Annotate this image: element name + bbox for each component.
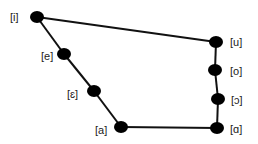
edge-line bbox=[37, 17, 216, 42]
vowel-dot bbox=[210, 122, 224, 134]
vowel-dot bbox=[87, 85, 101, 97]
vowel-label: [a] bbox=[95, 124, 107, 136]
vowel-chart-canvas bbox=[0, 0, 258, 144]
vowel-label: [ɔ] bbox=[231, 94, 243, 106]
vowel-dot bbox=[208, 64, 222, 76]
vowel-label: [i] bbox=[10, 11, 19, 23]
vowel-dot bbox=[30, 11, 44, 23]
vowel-label: [e] bbox=[41, 50, 53, 62]
vowel-dot bbox=[209, 36, 223, 48]
vowel-label: [ɛ] bbox=[67, 88, 78, 100]
vowel-dot bbox=[114, 121, 128, 133]
edge-line bbox=[64, 54, 94, 91]
vowel-dot bbox=[211, 93, 225, 105]
vowel-label: [o] bbox=[230, 65, 242, 77]
vowel-quadrilateral-diagram: [i][e][ɛ][a][u][o][ɔ][ɑ] bbox=[0, 0, 258, 144]
vowel-label: [ɑ] bbox=[230, 123, 242, 135]
edge-line bbox=[121, 127, 217, 128]
edge-line bbox=[94, 91, 121, 127]
vowel-label: [u] bbox=[230, 36, 242, 48]
vowel-dot bbox=[57, 48, 71, 60]
edge-line bbox=[37, 17, 64, 54]
